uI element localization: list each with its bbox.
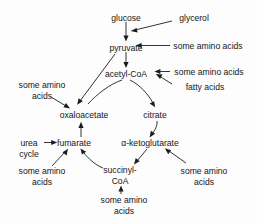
node-label-succinyl-coa-line2: CoA xyxy=(112,176,129,186)
diagram-labels-layer: glucose glycerol pyruvate some amino aci… xyxy=(0,0,257,224)
node-label-glucose: glucose xyxy=(111,13,141,23)
node-label-citrate: citrate xyxy=(143,110,167,120)
node-label-amino-acids-oxaloacetate-line2: acids xyxy=(32,91,52,101)
node-label-amino-acids-oxaloacetate-line1: some amino xyxy=(19,80,66,90)
node-label-fumarate: fumarate xyxy=(57,138,91,148)
node-label-amino-acids-fumarate-line2: acids xyxy=(32,177,52,187)
node-label-amino-acids-fumarate-line1: some amino xyxy=(19,166,66,176)
node-label-amino-acids-ketoglutarate-line2: acids xyxy=(194,177,214,187)
node-label-urea-cycle-line2: cycle xyxy=(19,149,39,159)
node-label-oxaloacetate: oxaloacetate xyxy=(60,110,109,120)
node-label-amino-acids-pyruvate: some amino acids xyxy=(173,41,242,51)
node-label-urea-cycle-line1: urea xyxy=(20,138,37,148)
node-label-alpha-ketoglutarate: α-ketoglutarate xyxy=(121,138,179,148)
node-label-amino-acids-acetyl-coa: some amino acids xyxy=(174,67,243,77)
metabolic-pathway-diagram: glucose glycerol pyruvate some amino aci… xyxy=(0,0,257,224)
node-label-succinyl-coa-line1: succinyl- xyxy=(103,165,137,175)
node-label-amino-acids-succinyl-coa-line2: acids xyxy=(114,206,134,216)
node-label-pyruvate: pyruvate xyxy=(110,43,143,53)
node-label-acetyl-coa: acetyl-CoA xyxy=(105,69,147,79)
node-label-fatty-acids: fatty acids xyxy=(186,82,225,92)
node-label-glycerol: glycerol xyxy=(179,13,209,23)
node-label-amino-acids-succinyl-coa-line1: some amino xyxy=(101,195,148,205)
node-label-amino-acids-ketoglutarate-line1: some amino xyxy=(181,166,228,176)
